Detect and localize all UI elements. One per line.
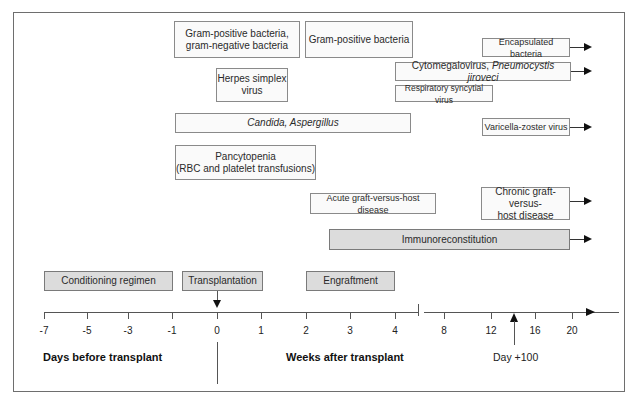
box-gram-positive-bacteria: Gram-positive bacteria	[305, 21, 413, 58]
box-label: Encapsulated bacteria	[483, 36, 569, 60]
tick	[128, 312, 129, 319]
box-line: gram-negative bacteria	[186, 40, 288, 52]
day100-label: Day +100	[493, 351, 538, 363]
tick-label: 20	[560, 325, 584, 336]
arrow-cmv-continues	[571, 71, 590, 72]
tick	[535, 312, 536, 319]
tick-label: -7	[32, 325, 56, 336]
tick	[306, 312, 307, 319]
weeks-after-transplant-title: Weeks after transplant	[286, 351, 404, 363]
box-line: Chronic graft-versus-	[482, 186, 569, 210]
axis-break-mark	[418, 304, 419, 316]
box-label: Immunoreconstitution	[402, 234, 498, 246]
box-label: Respiratory syncytial virus	[396, 82, 492, 106]
arrow-vzv-continues	[570, 127, 590, 128]
box-label: Cytomegalovirus, Pneumocystis jiroveci	[396, 60, 570, 84]
box-engraftment: Engraftment	[306, 271, 395, 291]
box-label: Gram-positive bacteria	[309, 34, 410, 46]
box-pancytopenia: Pancytopenia (RBC and platelet transfusi…	[175, 145, 316, 180]
axis-arrow-icon	[586, 308, 595, 316]
tick	[491, 312, 492, 319]
box-label: Engraftment	[323, 275, 377, 287]
day-zero-divider	[217, 342, 218, 384]
tick	[217, 312, 218, 319]
box-label: Candida, Aspergillus	[247, 117, 338, 129]
transplant-connector	[217, 291, 218, 300]
tick-label: 3	[338, 325, 362, 336]
arrow-immunoreconstitution-continues	[570, 239, 590, 240]
tick	[172, 312, 173, 319]
box-line: Gram-positive bacteria,	[185, 28, 288, 40]
box-line: virus	[241, 85, 262, 97]
tick	[395, 312, 396, 319]
box-conditioning-regimen: Conditioning regimen	[44, 271, 173, 291]
box-transplantation: Transplantation	[182, 271, 263, 291]
box-label: Acute graft-versus-host disease	[311, 192, 435, 216]
arrow-encapsulated-continues	[570, 47, 590, 48]
tick-label: 4	[383, 325, 407, 336]
tick	[44, 312, 45, 319]
tick-label: -5	[75, 325, 99, 336]
box-label: Conditioning regimen	[61, 275, 156, 287]
box-respiratory-syncytial-virus: Respiratory syncytial virus	[395, 85, 493, 102]
box-candida-aspergillus: Candida, Aspergillus	[175, 113, 411, 133]
transplant-arrow-icon	[213, 300, 221, 308]
box-encapsulated-bacteria: Encapsulated bacteria	[482, 38, 570, 57]
box-herpes-simplex-virus: Herpes simplex virus	[216, 68, 288, 102]
tick-label: 2	[294, 325, 318, 336]
box-label: Varicella-zoster virus	[485, 121, 568, 133]
timeline-axis-early	[44, 312, 418, 313]
tick-label: -3	[116, 325, 140, 336]
tick-label: 0	[205, 325, 229, 336]
box-immunoreconstitution: Immunoreconstitution	[329, 229, 570, 250]
box-line: host disease	[497, 210, 553, 222]
box-cytomegalovirus-pneumocystis: Cytomegalovirus, Pneumocystis jiroveci	[395, 62, 571, 81]
box-gram-positive-negative-bacteria: Gram-positive bacteria, gram-negative ba…	[174, 21, 300, 58]
box-chronic-gvhd: Chronic graft-versus- host disease	[481, 187, 570, 220]
tick-label: 16	[523, 325, 547, 336]
tick	[350, 312, 351, 319]
tick	[261, 312, 262, 319]
days-before-transplant-title: Days before transplant	[43, 351, 162, 363]
tick	[87, 312, 88, 319]
tick	[572, 312, 573, 319]
tick-label: 1	[249, 325, 273, 336]
day100-marker-line	[514, 321, 515, 345]
tick-label: 8	[432, 325, 456, 336]
box-line: Pancytopenia	[215, 151, 276, 163]
box-line: Herpes simplex	[218, 73, 287, 85]
box-line: (RBC and platelet transfusions)	[176, 163, 315, 175]
box-label: Transplantation	[188, 275, 257, 287]
box-varicella-zoster-virus: Varicella-zoster virus	[482, 118, 570, 136]
tick-label: 12	[479, 325, 503, 336]
arrow-chronic-gvhd-continues	[570, 201, 590, 202]
tick-label: -1	[160, 325, 184, 336]
box-acute-gvhd: Acute graft-versus-host disease	[310, 193, 436, 214]
cmv-label: Cytomegalovirus,	[412, 60, 492, 71]
tick	[444, 312, 445, 319]
